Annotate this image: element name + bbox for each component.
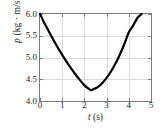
data-series-momentum: [40, 14, 142, 90]
momentum-vs-time-chart: p (kg · m/s) t (s) 4.04.55.05.56.0 01234…: [0, 0, 161, 129]
plot-area: [0, 0, 161, 129]
